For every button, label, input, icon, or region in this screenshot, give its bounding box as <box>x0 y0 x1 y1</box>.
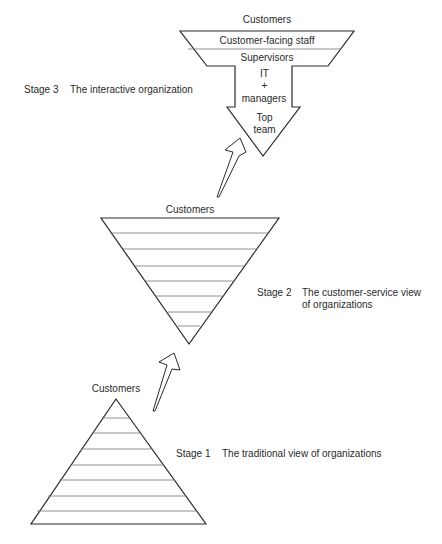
layer-it: IT <box>237 68 292 80</box>
stage2-customers-label: Customers <box>140 204 240 216</box>
stage1-label: Stage 1 <box>176 448 210 460</box>
stage1-customers-label: Customers <box>66 383 166 395</box>
stage3-title: The interactive organization <box>70 84 193 96</box>
upward-arrow-icon <box>217 138 246 197</box>
organization-evolution-diagram <box>0 0 442 544</box>
stage1-title: The traditional view of organizations <box>222 448 382 460</box>
stage2-title-line2: of organizations <box>302 299 373 311</box>
stage2-title-line1: The customer-service view <box>302 287 421 299</box>
stage3-label: Stage 3 <box>24 84 58 96</box>
layer-customer-facing-staff: Customer-facing staff <box>197 35 337 47</box>
stage3-customers-label: Customers <box>217 14 317 26</box>
layer-supervisors: Supervisors <box>217 52 317 64</box>
layer-team: team <box>237 124 292 136</box>
layer-managers: managers <box>233 93 295 105</box>
layer-top: Top <box>237 112 292 124</box>
stage2-label: Stage 2 <box>257 287 291 299</box>
stage2-inverted-pyramid <box>101 218 279 344</box>
layer-plus: + <box>237 80 292 92</box>
upward-arrow-icon <box>153 353 180 411</box>
stage1-pyramid <box>31 399 206 524</box>
